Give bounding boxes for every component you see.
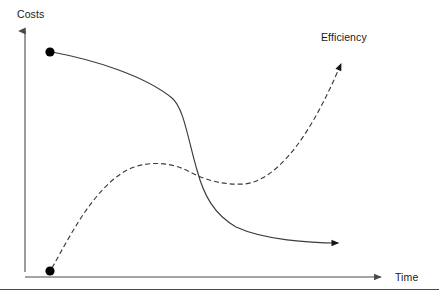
costs-curve	[45, 47, 338, 243]
figure-canvas: Costs Time Efficiency	[0, 0, 439, 297]
costs-curve-path	[52, 52, 338, 243]
y-axis-label: Costs	[17, 8, 44, 20]
efficiency-curve	[45, 64, 341, 276]
efficiency-start-marker	[45, 266, 54, 275]
efficiency-curve-label: Efficiency	[321, 31, 367, 43]
page-divider	[0, 289, 439, 290]
trade-off-line-chart	[0, 0, 439, 297]
costs-start-marker	[45, 47, 54, 56]
chart-axes	[25, 31, 381, 277]
efficiency-curve-path	[52, 64, 341, 268]
x-axis-label: Time	[395, 271, 418, 283]
